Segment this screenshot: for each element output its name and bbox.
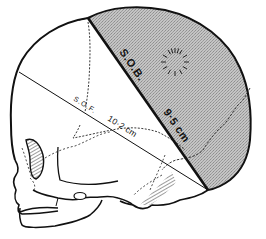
skull-diagram: S.O.B. 9·5 cm S.O.F. 10·2 cm	[0, 0, 266, 239]
shaded-vertex-region	[88, 7, 251, 190]
cranium-outline	[11, 18, 88, 160]
sof-label: S.O.F.	[72, 95, 97, 114]
sof-measurement: 10·2 cm	[106, 113, 139, 139]
coronal-suture	[85, 22, 90, 112]
skull-illustration: S.O.B. 9·5 cm S.O.F. 10·2 cm	[0, 0, 266, 239]
orbit	[26, 139, 44, 179]
